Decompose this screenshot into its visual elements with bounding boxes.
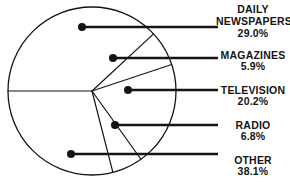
pie-label-value: 20.2% — [216, 96, 290, 107]
pie-label-value: 38.1% — [216, 166, 290, 177]
pie-label-value: 5.9% — [216, 61, 290, 72]
leader-dot-4 — [67, 150, 75, 158]
leader-dot-2 — [124, 86, 132, 94]
pie-label-television: TELEVISION 20.2% — [216, 85, 290, 108]
pie-label-value: 6.8% — [216, 131, 290, 142]
leader-dot-0 — [78, 23, 86, 31]
pie-label-daily-newspapers: DAILY NEWSPAPERS 29.0% — [216, 4, 290, 39]
leader-dot-1 — [109, 54, 117, 62]
pie-label-name-line1: DAILY — [216, 4, 290, 16]
pie-label-name-line2: NEWSPAPERS — [216, 16, 290, 28]
pie-label-other: OTHER 38.1% — [216, 155, 290, 178]
pie-label-value: 29.0% — [216, 28, 290, 39]
leader-dot-3 — [111, 121, 119, 129]
pie-label-magazines: MAGAZINES 5.9% — [216, 50, 290, 73]
pie-label-radio: RADIO 6.8% — [216, 120, 290, 143]
pie-chart-figure: DAILY NEWSPAPERS 29.0% MAGAZINES 5.9% TE… — [0, 0, 290, 182]
